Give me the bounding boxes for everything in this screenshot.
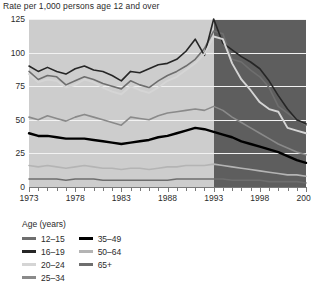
x-tick-1990 bbox=[186, 187, 187, 191]
legend-item-16–19[interactable]: 16–19 bbox=[22, 246, 65, 257]
legend-column-2: 35–4950–6465+ bbox=[79, 233, 122, 283]
legend-item-25–34[interactable]: 25–34 bbox=[22, 272, 65, 283]
x-tick-1989 bbox=[177, 187, 178, 191]
legend-item-label: 16–19 bbox=[41, 247, 65, 257]
x-tick-label-2003: 2003 bbox=[297, 193, 311, 203]
y-tick-label-50: 50 bbox=[16, 115, 25, 125]
series-line-65plus bbox=[29, 179, 306, 183]
legend-item-12–15[interactable]: 12–15 bbox=[22, 233, 65, 244]
x-tick-1983 bbox=[121, 187, 122, 192]
legend-swatch-icon bbox=[79, 263, 93, 266]
x-tick-1993 bbox=[214, 187, 215, 192]
legend-item-label: 50–64 bbox=[98, 247, 122, 257]
x-tick-2001 bbox=[288, 187, 289, 191]
y-tick-label-75: 75 bbox=[16, 81, 25, 91]
x-tick-2002 bbox=[297, 187, 298, 191]
x-tick-1984 bbox=[131, 187, 132, 191]
x-tick-label-1973: 1973 bbox=[20, 193, 39, 203]
legend-columns: 12–1516–1920–2425–3435–4950–6465+ bbox=[22, 233, 272, 283]
y-tick-label-100: 100 bbox=[11, 48, 25, 58]
x-tick-1987 bbox=[158, 187, 159, 191]
legend-item-65plus[interactable]: 65+ bbox=[79, 259, 122, 270]
x-tick-1976 bbox=[57, 187, 58, 191]
x-tick-1973 bbox=[29, 187, 30, 192]
x-tick-1978 bbox=[75, 187, 76, 192]
x-tick-label-1998: 1998 bbox=[250, 193, 269, 203]
x-tick-1998 bbox=[260, 187, 261, 192]
legend-item-20–24[interactable]: 20–24 bbox=[22, 259, 65, 270]
x-tick-1992 bbox=[204, 187, 205, 191]
y-tick-label-25: 25 bbox=[16, 148, 25, 158]
x-tick-1991 bbox=[195, 187, 196, 191]
x-tick-label-1988: 1988 bbox=[158, 193, 177, 203]
x-tick-1975 bbox=[47, 187, 48, 191]
legend-swatch-icon bbox=[22, 237, 36, 240]
x-tick-1982 bbox=[112, 187, 113, 191]
x-tick-1995 bbox=[232, 187, 233, 191]
x-tick-1974 bbox=[38, 187, 39, 191]
legend-swatch-icon bbox=[22, 263, 36, 266]
x-tick-label-1978: 1978 bbox=[66, 193, 85, 203]
x-tick-1996 bbox=[241, 187, 242, 191]
chart-title: Rate per 1,000 persons age 12 and over bbox=[3, 1, 159, 11]
legend-item-label: 65+ bbox=[98, 260, 112, 270]
x-tick-label-1993: 1993 bbox=[204, 193, 223, 203]
y-tick-label-125: 125 bbox=[11, 14, 25, 24]
x-tick-1988 bbox=[168, 187, 169, 192]
x-tick-1980 bbox=[94, 187, 95, 191]
x-tick-2000 bbox=[278, 187, 279, 191]
x-tick-1986 bbox=[149, 187, 150, 191]
legend-swatch-icon bbox=[79, 250, 93, 253]
x-tick-label-1983: 1983 bbox=[112, 193, 131, 203]
series-line-12-15 bbox=[29, 31, 306, 125]
x-tick-1985 bbox=[140, 187, 141, 191]
legend-item-label: 25–34 bbox=[41, 273, 65, 283]
legend-column-1: 12–1516–1920–2425–34 bbox=[22, 233, 65, 283]
x-tick-2003 bbox=[306, 187, 307, 192]
y-tick-label-0: 0 bbox=[20, 182, 25, 192]
series-line-50-64 bbox=[29, 164, 306, 176]
series-line-35-49 bbox=[29, 128, 306, 163]
legend-swatch-icon bbox=[79, 237, 93, 240]
x-tick-1981 bbox=[103, 187, 104, 191]
series-line-16-19 bbox=[29, 19, 306, 124]
x-tick-1994 bbox=[223, 187, 224, 191]
x-tick-1979 bbox=[84, 187, 85, 191]
legend-item-label: 12–15 bbox=[41, 234, 65, 244]
legend-item-50–64[interactable]: 50–64 bbox=[79, 246, 122, 257]
series-lines bbox=[29, 19, 306, 187]
x-tick-1997 bbox=[251, 187, 252, 191]
plot-area: 1251007550250 bbox=[29, 19, 306, 187]
legend-swatch-icon bbox=[22, 250, 36, 253]
legend: Age (years) 12–1516–1920–2425–3435–4950–… bbox=[22, 219, 272, 283]
legend-item-label: 35–49 bbox=[98, 234, 122, 244]
legend-item-label: 20–24 bbox=[41, 260, 65, 270]
legend-swatch-icon bbox=[22, 276, 36, 279]
x-tick-1977 bbox=[66, 187, 67, 191]
legend-item-35–49[interactable]: 35–49 bbox=[79, 233, 122, 244]
chart-figure: Rate per 1,000 persons age 12 and over 1… bbox=[0, 0, 311, 287]
legend-title: Age (years) bbox=[22, 219, 272, 229]
x-tick-1999 bbox=[269, 187, 270, 191]
